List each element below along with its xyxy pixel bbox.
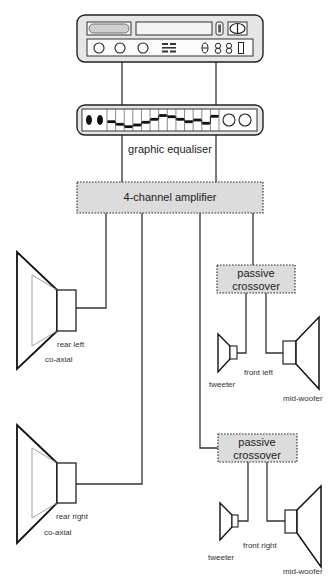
equaliser-button-2[interactable] — [97, 115, 103, 125]
rear-left-label: rear left — [57, 340, 85, 349]
woofer-cone-icon — [297, 486, 321, 567]
speaker-magnet-icon — [57, 463, 76, 503]
front-left-woofer-label: mid-woofer — [283, 394, 323, 403]
amplifier: 4-channel amplifier — [77, 182, 263, 213]
wire-crossover-left-tweeter — [237, 293, 246, 353]
wire-amp-crossover-right — [200, 213, 218, 448]
car-audio-system-diagram: graphic equaliser 4-channel amplifier re… — [0, 0, 335, 584]
front-right-woofer-label: mid-woofer — [283, 567, 323, 576]
front-left-label: front left — [244, 368, 274, 377]
wire-crossover-left-woofer — [266, 293, 283, 353]
crossover-front-left: passive crossover — [217, 265, 295, 293]
woofer-magnet-icon — [283, 341, 296, 364]
equaliser-band-slider[interactable] — [133, 124, 140, 127]
rear-right-type-label: co-axial — [44, 528, 72, 537]
equaliser-knob-1[interactable] — [223, 114, 235, 126]
speaker-front-left-woofer: mid-woofer — [283, 317, 323, 403]
display-window — [136, 22, 212, 35]
control-knob-2[interactable] — [115, 43, 125, 53]
equaliser-band-slider[interactable] — [194, 119, 201, 122]
crossover-label-line2: crossover — [233, 449, 281, 461]
equaliser-band-slider[interactable] — [177, 118, 184, 121]
equaliser-band-slider[interactable] — [185, 120, 192, 123]
equaliser-button-1[interactable] — [86, 115, 92, 125]
eject-button-inner-icon — [218, 25, 221, 33]
crossover-label-line2: crossover — [232, 280, 280, 292]
wire-amp-rear-right — [76, 213, 142, 484]
equaliser-band-slider[interactable] — [108, 120, 115, 123]
wire-crossover-right-tweeter — [238, 462, 248, 521]
crossover-label-line1: passive — [237, 267, 274, 279]
equaliser-label: graphic equaliser — [128, 143, 212, 155]
equaliser-band-slider[interactable] — [125, 125, 132, 128]
tweeter-cone-icon — [218, 334, 230, 372]
speaker-front-left-tweeter: tweeter — [209, 334, 237, 389]
crossover-label-line1: passive — [238, 436, 275, 448]
tweeter-magnet-icon — [232, 515, 238, 527]
cassette-slot-icon — [89, 24, 129, 33]
front-right-label: front right — [243, 541, 278, 550]
woofer-cone-icon — [296, 317, 319, 389]
rear-right-label: rear right — [56, 512, 89, 521]
crossover-front-right: passive crossover — [218, 434, 297, 462]
front-left-tweeter-label: tweeter — [209, 380, 236, 389]
rear-left-type-label: co-axial — [45, 355, 73, 364]
graphic-equaliser: graphic equaliser — [77, 105, 263, 155]
tweeter-cone-icon — [220, 503, 232, 540]
equaliser-band-slider[interactable] — [159, 114, 166, 117]
equaliser-band-slider[interactable] — [142, 121, 149, 124]
speaker-cone-icon — [17, 252, 57, 369]
equaliser-knob-2[interactable] — [239, 114, 251, 126]
equaliser-band-slider[interactable] — [211, 115, 218, 118]
control-knob-3[interactable] — [138, 43, 148, 53]
speaker-front-right-tweeter: tweeter — [208, 503, 238, 562]
control-knob-1[interactable] — [94, 43, 104, 53]
woofer-magnet-icon — [285, 510, 297, 533]
speaker-front-right-woofer: mid-woofer — [283, 486, 323, 576]
amplifier-label: 4-channel amplifier — [124, 191, 217, 203]
equaliser-band-slider[interactable] — [168, 115, 175, 118]
wire-amp-rear-left — [76, 213, 106, 308]
equaliser-band-slider[interactable] — [202, 122, 209, 125]
equaliser-band-slider[interactable] — [116, 123, 123, 126]
speaker-magnet-icon — [57, 290, 76, 331]
speaker-cone-icon — [17, 425, 57, 543]
head-unit — [77, 15, 263, 62]
tweeter-magnet-icon — [230, 346, 237, 359]
equaliser-band-slider[interactable] — [151, 118, 158, 121]
front-right-tweeter-label: tweeter — [208, 553, 235, 562]
wire-crossover-right-woofer — [267, 462, 285, 521]
speaker-rear-left: rear left co-axial — [17, 252, 85, 369]
